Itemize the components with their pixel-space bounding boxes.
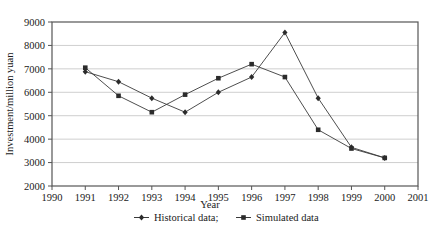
y-tick-label: 4000: [24, 134, 45, 145]
y-tick-label: 2000: [24, 181, 45, 192]
x-tick-label: 1999: [341, 192, 362, 203]
y-tick-label: 7000: [24, 64, 45, 75]
y-tick-label: 9000: [24, 17, 45, 28]
x-tick-label: 1994: [175, 192, 197, 203]
x-tick-label: 1998: [308, 192, 329, 203]
x-tick-label: 1992: [108, 192, 129, 203]
investment-line-chart: 20003000400050006000700080009000 1990199…: [0, 0, 436, 230]
data-point-simulated: [116, 94, 121, 99]
x-tick-label: 1997: [274, 192, 295, 203]
data-point-simulated: [316, 127, 321, 132]
legend-marker-square-icon: [241, 215, 246, 220]
data-point-simulated: [150, 110, 155, 115]
data-point-simulated: [183, 92, 188, 97]
legend-label-historical: Historical data;: [154, 212, 219, 223]
data-point-simulated: [382, 156, 387, 161]
data-point-simulated: [249, 62, 254, 67]
x-tick-label: 2001: [408, 192, 429, 203]
legend-label-simulated: Simulated data: [256, 212, 319, 223]
data-point-simulated: [216, 76, 221, 81]
y-tick-label: 8000: [24, 40, 45, 51]
x-tick-label: 1991: [75, 192, 96, 203]
y-axis-label: Investment/million yuan: [4, 52, 15, 156]
x-tick-label: 1996: [241, 192, 262, 203]
chart-container: 20003000400050006000700080009000 1990199…: [0, 0, 436, 230]
data-point-simulated: [83, 65, 88, 70]
data-point-simulated: [283, 75, 288, 80]
x-tick-label: 1990: [42, 192, 63, 203]
x-tick-label: 2000: [374, 192, 395, 203]
x-tick-label: 1993: [141, 192, 162, 203]
data-point-simulated: [349, 146, 354, 151]
y-tick-label: 6000: [24, 87, 45, 98]
y-tick-label: 3000: [24, 157, 45, 168]
x-axis-label: Year: [200, 199, 220, 210]
y-tick-label: 5000: [24, 111, 45, 122]
